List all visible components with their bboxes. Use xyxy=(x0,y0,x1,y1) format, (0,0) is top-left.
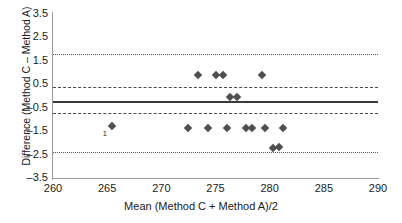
data-point xyxy=(194,71,202,79)
x-tick-label: 290 xyxy=(358,182,398,194)
upper-limit-of-agreement xyxy=(53,54,378,55)
data-point xyxy=(261,124,269,132)
y-tick-label: 1.5 xyxy=(2,55,48,66)
data-point xyxy=(219,71,227,79)
upper-dashed-line xyxy=(53,87,378,88)
x-tick-label: 275 xyxy=(196,182,236,194)
x-axis-tick-labels: 260265270275280285290 xyxy=(0,182,402,198)
x-tick-label: 280 xyxy=(250,182,290,194)
y-tick-label: 0.5 xyxy=(2,78,48,89)
plot-area: 1 xyxy=(53,14,378,178)
lower-dashed-line xyxy=(53,113,378,114)
y-tick-label: 3.5 xyxy=(2,8,48,19)
data-point xyxy=(204,123,212,131)
x-axis-line xyxy=(52,178,379,179)
y-tick-label: –2.5 xyxy=(2,149,48,160)
data-point xyxy=(107,122,115,130)
point-annotation: 1 xyxy=(103,130,107,138)
lower-limit-of-agreement xyxy=(53,152,378,153)
data-point xyxy=(275,143,283,151)
data-point xyxy=(184,123,192,131)
y-tick-label: –1.5 xyxy=(2,125,48,136)
x-tick-label: 265 xyxy=(87,182,127,194)
mean-bias-line xyxy=(53,101,378,103)
bland-altman-chart: Difference (Method C – Method A) 3.52.51… xyxy=(0,0,402,223)
x-tick-label: 260 xyxy=(33,182,73,194)
x-tick-label: 285 xyxy=(304,182,344,194)
data-point xyxy=(278,124,286,132)
y-tick-label: 2.5 xyxy=(2,31,48,42)
data-point xyxy=(248,124,256,132)
x-tick-label: 270 xyxy=(141,182,181,194)
data-point xyxy=(223,123,231,131)
y-tick-label: –0.5 xyxy=(2,102,48,113)
x-axis-title: Mean (Method C + Method A)/2 xyxy=(0,200,402,212)
data-point xyxy=(258,71,266,79)
